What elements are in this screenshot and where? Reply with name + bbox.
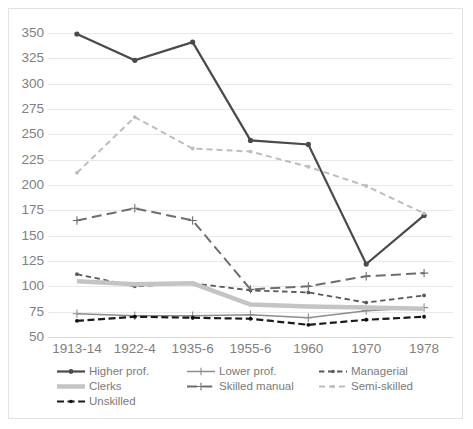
data-point <box>304 282 312 290</box>
legend-swatch <box>56 366 86 377</box>
y-tick-label: 125 <box>10 254 44 268</box>
y-axis: 5075100125150175200225250275300325350 <box>4 33 44 337</box>
data-point <box>420 269 428 277</box>
series-line <box>77 208 424 289</box>
data-point <box>364 301 368 305</box>
legend-swatch <box>318 366 348 377</box>
data-point <box>191 147 195 151</box>
data-point <box>306 323 310 327</box>
plot-area <box>48 33 453 337</box>
data-point <box>364 261 369 266</box>
data-point <box>304 314 312 322</box>
legend-item-clerks[interactable]: Clerks <box>56 379 186 394</box>
legend-item-semi-skilled[interactable]: Semi-skilled <box>318 379 448 394</box>
legend-label: Lower prof. <box>219 366 277 378</box>
data-point <box>249 150 253 154</box>
y-tick-label: 350 <box>10 26 44 40</box>
series-semi-skilled <box>75 115 426 215</box>
legend-row: Unskilled <box>56 394 456 409</box>
y-tick-label: 300 <box>10 77 44 91</box>
legend-label: Skilled manual <box>219 381 294 393</box>
data-point <box>422 211 426 215</box>
series-layer <box>48 33 453 337</box>
legend-item-higher-prof[interactable]: Higher prof. <box>56 364 186 379</box>
y-tick-label: 225 <box>10 153 44 167</box>
data-point <box>362 272 370 280</box>
x-tick-label: 1978 <box>409 342 439 356</box>
data-point <box>306 142 311 147</box>
y-tick-label: 100 <box>10 279 44 293</box>
legend-swatch <box>186 366 216 377</box>
legend-swatch <box>56 396 86 407</box>
data-point <box>364 318 368 322</box>
legend-swatch <box>318 381 348 392</box>
data-point <box>133 315 137 319</box>
x-axis: 1913-141922-41935-61955-6196019701978 <box>48 342 453 362</box>
y-tick-label: 50 <box>10 330 44 344</box>
y-tick-label: 150 <box>10 229 44 243</box>
data-point <box>306 291 310 295</box>
data-point <box>190 40 195 45</box>
x-tick-label: 1922-4 <box>114 342 156 356</box>
data-point <box>132 58 137 63</box>
series-higher-prof <box>74 31 426 266</box>
y-tick-label: 275 <box>10 102 44 116</box>
legend-item-lower-prof[interactable]: Lower prof. <box>186 364 318 379</box>
data-point <box>131 204 139 212</box>
x-tick-label: 1913-14 <box>52 342 102 356</box>
series-line <box>77 117 424 213</box>
legend-item-skilled-manual[interactable]: Skilled manual <box>186 379 318 394</box>
legend-swatch <box>186 381 216 392</box>
chart-legend: Higher prof.Lower prof.ManagerialClerksS… <box>56 364 456 409</box>
data-point <box>306 165 310 169</box>
y-tick-label: 75 <box>10 305 44 319</box>
legend-label: Clerks <box>89 381 122 393</box>
x-tick-label: 1935-6 <box>172 342 214 356</box>
y-tick-label: 175 <box>10 203 44 217</box>
data-point <box>249 317 253 321</box>
x-tick-label: 1970 <box>351 342 381 356</box>
legend-row: Higher prof.Lower prof.Managerial <box>56 364 456 379</box>
x-tick-label: 1960 <box>293 342 323 356</box>
data-point <box>191 316 195 320</box>
data-point <box>75 171 79 175</box>
data-point <box>73 309 81 317</box>
x-axis-line <box>48 337 453 338</box>
data-point <box>74 31 79 36</box>
x-tick-label: 1955-6 <box>229 342 271 356</box>
data-point <box>75 272 79 276</box>
y-tick-label: 325 <box>10 51 44 65</box>
legend-label: Higher prof. <box>89 366 149 378</box>
legend-item-unskilled[interactable]: Unskilled <box>56 394 186 409</box>
legend-swatch <box>56 381 86 392</box>
data-point <box>75 319 79 323</box>
y-tick-label: 250 <box>10 127 44 141</box>
series-skilled-manual <box>73 204 429 293</box>
data-point <box>364 184 368 188</box>
legend-label: Unskilled <box>89 396 136 408</box>
data-point <box>422 315 426 319</box>
legend-row: ClerksSkilled manualSemi-skilled <box>56 379 456 394</box>
legend-item-managerial[interactable]: Managerial <box>318 364 448 379</box>
y-tick-label: 200 <box>10 178 44 192</box>
data-point <box>248 138 253 143</box>
data-point <box>422 294 426 298</box>
data-point <box>73 216 81 224</box>
data-point <box>133 115 137 119</box>
legend-label: Managerial <box>351 366 408 378</box>
series-line <box>77 34 424 264</box>
legend-label: Semi-skilled <box>351 381 413 393</box>
line-chart: 5075100125150175200225250275300325350 19… <box>0 0 473 429</box>
